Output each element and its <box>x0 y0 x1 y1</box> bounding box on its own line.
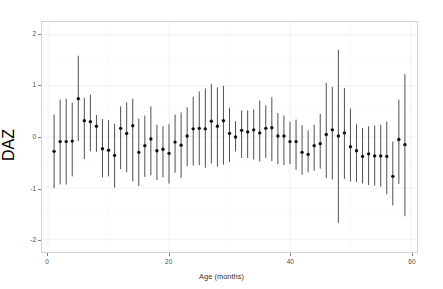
data-point <box>179 143 182 146</box>
data-point <box>282 134 285 137</box>
y-tick-mark <box>38 34 41 35</box>
x-tick-mark <box>412 253 413 256</box>
data-point <box>125 132 128 135</box>
data-point <box>361 155 364 158</box>
data-point <box>204 127 207 130</box>
data-point <box>89 120 92 123</box>
data-point <box>264 127 267 130</box>
data-point <box>58 140 61 143</box>
data-point <box>385 155 388 158</box>
x-axis-title-label: Age (months) <box>199 272 244 281</box>
y-axis-title-label: DAZ <box>0 129 18 161</box>
data-point <box>391 175 394 178</box>
data-point <box>101 147 104 150</box>
x-axis-title: Age (months) <box>0 272 443 281</box>
data-point <box>65 140 68 143</box>
data-point <box>143 144 146 147</box>
data-point <box>258 131 261 134</box>
x-tick-label: 20 <box>165 259 172 266</box>
data-series-errorbars <box>42 22 417 252</box>
data-point <box>95 125 98 128</box>
data-point <box>119 127 122 130</box>
x-tick-mark <box>47 253 48 256</box>
data-point <box>367 152 370 155</box>
data-point <box>294 140 297 143</box>
data-point <box>240 129 243 132</box>
data-point <box>379 154 382 157</box>
data-point <box>319 142 322 145</box>
data-point <box>349 145 352 148</box>
data-point <box>167 152 170 155</box>
data-point <box>216 125 219 128</box>
data-point <box>403 143 406 146</box>
y-tick-label: -1 <box>20 185 36 192</box>
y-tick-mark <box>38 85 41 86</box>
data-point <box>355 149 358 152</box>
y-tick-label: 0 <box>20 134 36 141</box>
y-tick-mark <box>38 240 41 241</box>
y-tick-label: -2 <box>20 237 36 244</box>
data-point <box>312 144 315 147</box>
data-point <box>337 134 340 137</box>
data-point <box>83 119 86 122</box>
data-point <box>71 139 74 142</box>
data-point <box>210 119 213 122</box>
x-tick-mark <box>169 253 170 256</box>
data-point <box>155 149 158 152</box>
data-point <box>343 131 346 134</box>
data-point <box>246 130 249 133</box>
data-point <box>222 119 225 122</box>
data-point <box>252 128 255 131</box>
data-point <box>198 127 201 130</box>
data-point <box>228 132 231 135</box>
data-point <box>270 126 273 129</box>
data-point <box>149 137 152 140</box>
data-point <box>137 151 140 154</box>
data-point <box>276 134 279 137</box>
x-tick-label: 0 <box>45 259 49 266</box>
x-tick-label: 60 <box>408 259 415 266</box>
y-tick-label: 1 <box>20 82 36 89</box>
data-point <box>52 150 55 153</box>
y-tick-mark <box>38 189 41 190</box>
data-point <box>192 127 195 130</box>
data-point <box>288 140 291 143</box>
data-point <box>300 151 303 154</box>
x-tick-label: 40 <box>287 259 294 266</box>
y-axis-title: DAZ <box>0 0 18 289</box>
data-point <box>331 128 334 131</box>
data-point <box>113 154 116 157</box>
data-point <box>234 135 237 138</box>
chart-figure: DAZ 210-1-2 0204060 Age (months) <box>0 0 443 289</box>
x-tick-mark <box>290 253 291 256</box>
data-point <box>373 154 376 157</box>
plot-panel <box>41 21 418 253</box>
data-point <box>173 140 176 143</box>
y-tick-label: 2 <box>20 31 36 38</box>
data-point <box>306 153 309 156</box>
data-point <box>107 149 110 152</box>
data-point <box>185 134 188 137</box>
data-point <box>397 138 400 141</box>
data-point <box>77 97 80 100</box>
data-point <box>161 148 164 151</box>
data-point <box>131 124 134 127</box>
data-point <box>325 133 328 136</box>
y-tick-mark <box>38 137 41 138</box>
